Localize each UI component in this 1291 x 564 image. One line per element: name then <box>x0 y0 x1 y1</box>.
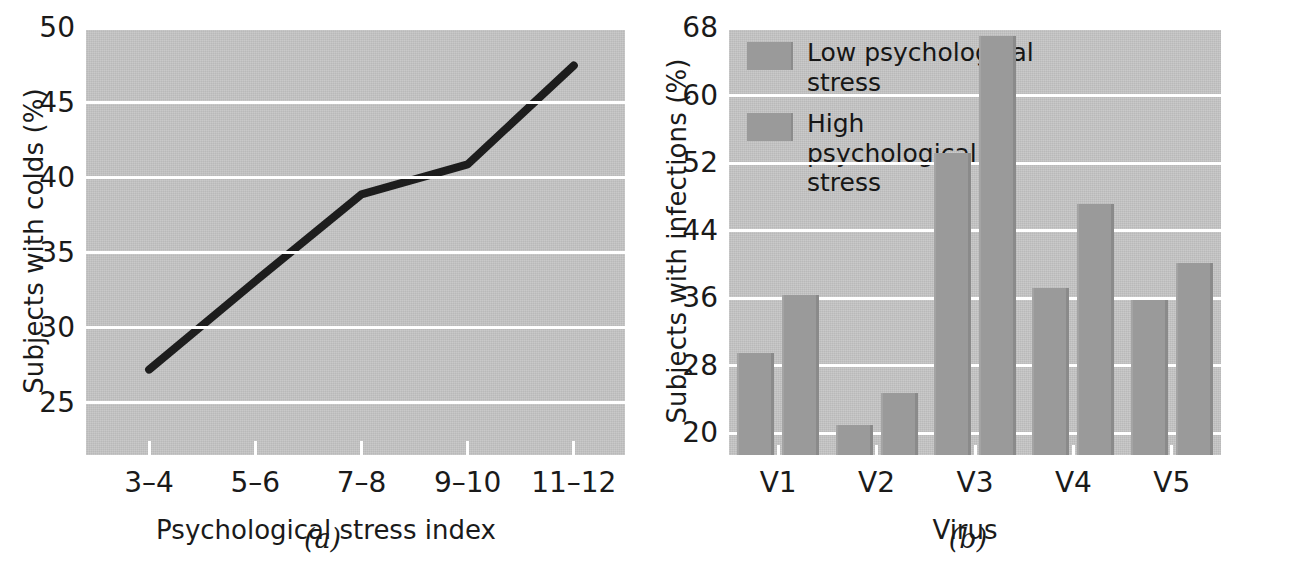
x-axis-tick-a <box>572 441 575 455</box>
x-tick-label-b: V5 <box>1102 469 1242 497</box>
y-tick-label-a: 45 <box>39 89 75 117</box>
bar-V5-series2 <box>1176 263 1213 455</box>
x-axis-tick-b <box>1072 445 1075 455</box>
y-tick-label-b: 36 <box>682 284 718 312</box>
bar-V1-series2 <box>782 295 819 455</box>
gridline-a <box>86 101 625 104</box>
panel-caption-b: (b) <box>645 525 1291 552</box>
bar-V3-series2 <box>979 36 1016 455</box>
bar-V2-series2 <box>881 393 918 455</box>
bar-V3-series1 <box>934 153 971 455</box>
gridline-b <box>729 28 1221 30</box>
x-axis-tick-b <box>974 445 977 455</box>
bar-V1-series1 <box>737 353 774 455</box>
legend-swatch-icon-2 <box>747 113 793 141</box>
figure-root: Subjects with colds (%) 253035404550 3–4… <box>0 0 1291 564</box>
y-tick-label-b: 68 <box>682 14 718 42</box>
gridline-a <box>86 251 625 254</box>
plot-area-a <box>86 28 625 455</box>
bar-V4-series2 <box>1077 204 1114 455</box>
y-tick-label-b: 60 <box>682 82 718 110</box>
bar-V4-series1 <box>1032 288 1069 455</box>
gridline-b <box>729 162 1221 165</box>
y-tick-label-b: 28 <box>682 352 718 380</box>
line-series-subjects-with-colds <box>86 28 625 455</box>
panel-a-line-chart: Subjects with colds (%) 253035404550 3–4… <box>0 0 645 564</box>
x-axis-tick-a <box>360 441 363 455</box>
x-axis-tick-b <box>1170 445 1173 455</box>
y-tick-label-b: 20 <box>682 419 718 447</box>
bar-V2-series1 <box>836 425 873 455</box>
y-tick-label-b: 44 <box>682 217 718 245</box>
y-tick-label-a: 25 <box>39 389 75 417</box>
y-tick-label-a: 35 <box>39 239 75 267</box>
panel-caption-a: (a) <box>0 525 645 552</box>
x-axis-tick-b <box>777 445 780 455</box>
plot-area-b: Low psychological stressHigh psychologic… <box>729 28 1221 455</box>
x-tick-label-a: 11–12 <box>504 469 644 497</box>
y-tick-label-a: 40 <box>39 164 75 192</box>
gridline-a <box>86 326 625 329</box>
panel-b-bar-chart: Subjects with infections (%) 20283644526… <box>645 0 1291 564</box>
legend-swatch-icon-1 <box>747 42 793 70</box>
bar-V5-series1 <box>1131 300 1168 455</box>
x-axis-tick-a <box>466 441 469 455</box>
x-axis-tick-a <box>254 441 257 455</box>
gridline-a <box>86 401 625 404</box>
gridline-a <box>86 176 625 179</box>
y-tick-label-b: 52 <box>682 149 718 177</box>
gridline-b <box>729 94 1221 97</box>
gridline-a <box>86 28 625 30</box>
x-axis-tick-b <box>875 445 878 455</box>
y-tick-label-a: 50 <box>39 14 75 42</box>
y-tick-label-a: 30 <box>39 314 75 342</box>
gridline-b <box>729 229 1221 232</box>
x-axis-tick-a <box>148 441 151 455</box>
